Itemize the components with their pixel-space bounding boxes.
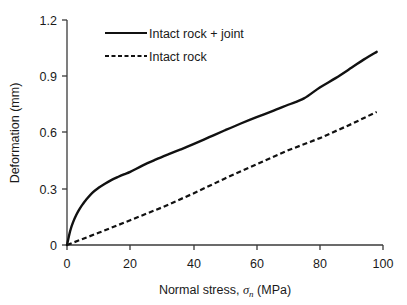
- y-tick-label-0: 0: [50, 239, 57, 253]
- x-tick-label-80: 80: [313, 257, 327, 271]
- x-tick-label-20: 20: [123, 257, 137, 271]
- x-tick-label-0: 0: [64, 257, 71, 271]
- legend-label-intact-rock-plus-joint: Intact rock + joint: [149, 27, 244, 41]
- y-tick-label-1_2: 1.2: [40, 14, 57, 28]
- chart-background: [0, 0, 407, 305]
- x-tick-label-60: 60: [250, 257, 264, 271]
- deformation-vs-normal-stress-chart: 1.2 0.9 0.6 0.3 0 0 20 40 60 80 100 Defo…: [0, 0, 407, 305]
- x-tick-label-40: 40: [187, 257, 201, 271]
- x-axis-title-suffix: (MPa): [254, 283, 292, 297]
- y-tick-label-0_3: 0.3: [40, 183, 57, 197]
- y-tick-label-0_9: 0.9: [40, 70, 57, 84]
- x-axis-title-prefix: Normal stress,: [159, 283, 243, 297]
- legend-label-intact-rock: Intact rock: [149, 50, 207, 64]
- x-axis-title: Normal stress, σn (MPa): [159, 283, 291, 299]
- y-tick-label-0_6: 0.6: [40, 126, 57, 140]
- x-tick-label-100: 100: [373, 257, 394, 271]
- y-axis-title: Deformation (mm): [8, 83, 22, 184]
